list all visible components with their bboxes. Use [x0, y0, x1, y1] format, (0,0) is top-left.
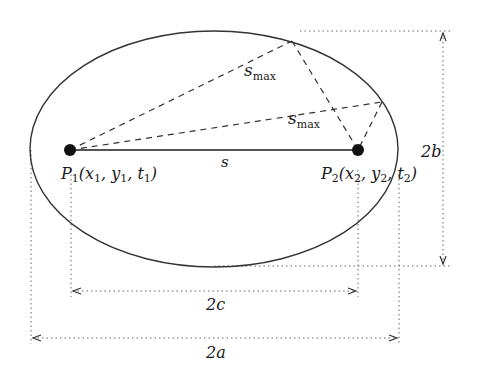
label-p2: P2(x2, y2, t2)	[320, 164, 417, 185]
label-p2-coords-open: (x	[339, 164, 354, 183]
label-smax-1: smax	[244, 60, 277, 83]
label-p1-y: , y	[101, 164, 121, 183]
label-p1-close: )	[150, 164, 157, 183]
label-p1-x-sub: 1	[94, 172, 101, 185]
point-p2	[352, 144, 364, 156]
label-smax-1-main: s	[244, 60, 253, 80]
label-p2-sub: 2	[332, 172, 339, 185]
label-p2-t: , t	[387, 164, 404, 183]
arrowheads	[33, 33, 446, 341]
label-p1: P1(x1, y1, t1)	[60, 164, 157, 185]
label-p2-x-sub: 2	[354, 172, 361, 185]
label-2a: 2a	[205, 343, 226, 362]
label-p1-name: P	[60, 164, 72, 183]
arrow-2b-bottom	[440, 256, 446, 264]
label-p1-t: , t	[127, 164, 144, 183]
ellipse-boundary	[30, 31, 398, 267]
smax-path-2-leg-1	[70, 102, 382, 150]
label-smax-2: smax	[288, 108, 321, 131]
label-2c: 2c	[205, 295, 225, 314]
label-p2-y-sub: 2	[380, 172, 387, 185]
label-p2-close: )	[410, 164, 417, 183]
label-smax-2-sub: max	[297, 118, 321, 131]
extension-lines	[31, 31, 452, 344]
arrow-2b-top	[440, 33, 446, 41]
label-p2-t-sub: 2	[404, 172, 411, 185]
point-p1	[64, 144, 76, 156]
label-p1-t-sub: 1	[144, 172, 151, 185]
label-p2-name: P	[320, 164, 332, 183]
smax-path-1-leg-2	[292, 41, 358, 150]
smax-paths	[70, 41, 382, 150]
label-smax-2-main: s	[288, 108, 297, 128]
arrow-2a-left	[33, 335, 41, 341]
label-p2-y: , y	[361, 164, 381, 183]
smax-path-1-leg-1	[70, 41, 292, 150]
label-p1-coords-open: (x	[79, 164, 94, 183]
ellipse-diagram: s smax smax P1(x1, y1, t1) P2(x2, y2, t2…	[0, 0, 494, 374]
label-s: s	[221, 153, 229, 171]
label-smax-1-sub: max	[253, 70, 277, 83]
label-p1-y-sub: 1	[120, 172, 127, 185]
arrow-2c-left	[73, 288, 81, 294]
smax-path-2-leg-2	[358, 102, 382, 150]
label-p1-sub: 1	[72, 172, 79, 185]
label-2b: 2b	[420, 142, 441, 161]
